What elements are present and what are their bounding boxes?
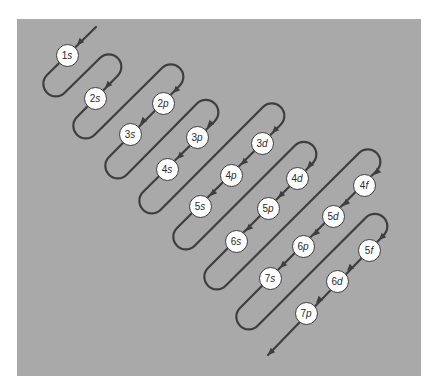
filling-order-line	[43, 27, 387, 355]
orbital-node-5s: 5s	[189, 195, 212, 218]
orbital-node-7s: 7s	[259, 267, 282, 290]
orbital-node-5d: 5d	[322, 205, 345, 228]
subshell-letter: d	[333, 211, 339, 222]
subshell-letter: p	[163, 98, 169, 109]
subshell-letter: p	[306, 308, 312, 319]
subshell-letter: d	[337, 276, 343, 287]
orbital-node-5f: 5f	[358, 239, 381, 262]
orbital-node-3d: 3d	[251, 132, 274, 155]
subshell-letter: p	[268, 203, 274, 214]
subshell-letter: s	[270, 273, 275, 284]
subshell-letter: f	[370, 245, 373, 256]
orbital-node-4f: 4f	[353, 174, 376, 197]
subshell-letter: p	[231, 170, 237, 181]
orbital-node-1s: 1s	[56, 44, 79, 67]
subshell-letter: s	[236, 236, 241, 247]
subshell-letter: d	[262, 138, 268, 149]
subshell-letter: p	[303, 241, 309, 252]
subshell-letter: d	[297, 173, 303, 184]
subshell-letter: s	[200, 201, 205, 212]
orbital-node-4p: 4p	[220, 164, 243, 187]
subshell-letter: s	[67, 50, 72, 61]
orbital-node-3s: 3s	[119, 123, 142, 146]
orbital-node-6p: 6p	[292, 235, 315, 258]
orbital-node-6s: 6s	[225, 230, 248, 253]
subshell-letter: s	[167, 164, 172, 175]
orbital-node-4s: 4s	[156, 158, 179, 181]
subshell-letter: f	[365, 180, 368, 191]
orbital-node-3p: 3p	[186, 126, 209, 149]
subshell-letter: s	[130, 129, 135, 140]
orbital-node-5p: 5p	[257, 197, 280, 220]
orbital-node-4d: 4d	[286, 167, 309, 190]
orbital-node-2s: 2s	[84, 87, 107, 110]
subshell-letter: p	[197, 132, 203, 143]
orbital-node-7p: 7p	[295, 302, 318, 325]
orbital-node-6d: 6d	[326, 270, 349, 293]
arrowheads	[77, 38, 386, 355]
orbital-node-2p: 2p	[152, 92, 175, 115]
subshell-letter: s	[95, 93, 100, 104]
